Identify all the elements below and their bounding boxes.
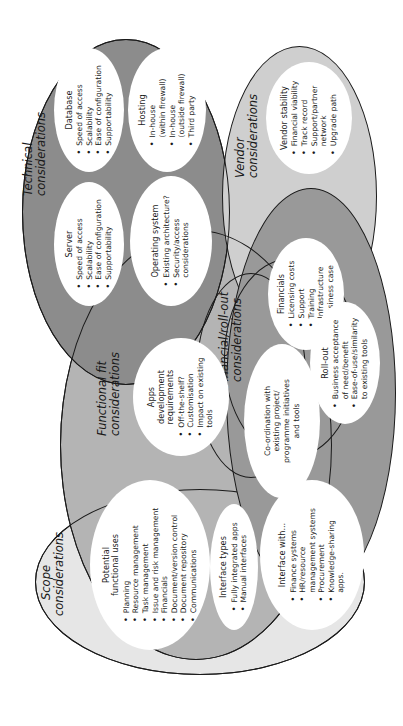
vendor-considerations-label: Vendor considerations <box>234 94 259 178</box>
apps-dev-item: Off-the-shelf? <box>177 357 187 436</box>
server-bubble: Server Speed of access Scalability Ease … <box>54 182 124 306</box>
coordination-line: programme initiatives <box>282 379 292 463</box>
roll-out-bubble: Roll-out Business acceptanceof need/bene… <box>310 302 380 424</box>
database-bubble: Database Speed of access Scalability Eas… <box>54 48 124 172</box>
technical-label-line1: Technical <box>22 112 35 196</box>
considerations-diagram: Technical considerations Vendor consider… <box>0 0 403 726</box>
potential-uses-item: Document/version control <box>170 508 180 623</box>
server-item: Supportability <box>104 199 114 289</box>
hosting-bubble: Hosting In-house(within firewall) In-hou… <box>128 48 206 172</box>
potential-uses-item: Document repository <box>179 508 189 623</box>
potential-functional-uses-bubble: Potential functional uses Planning Resou… <box>90 480 210 650</box>
operating-system-title: Operating system <box>151 195 161 286</box>
potential-uses-item: Task management <box>141 508 151 623</box>
vendor-item: Upgrade path <box>329 81 339 156</box>
interface-with-item: Knowledge-sharingapps. <box>327 508 346 602</box>
vendor-item: Track record <box>300 81 310 156</box>
scope-label-line2: considerations <box>53 532 66 616</box>
operating-system-bubble: Operating system Existing architecture? … <box>130 176 212 306</box>
interface-with-bubble: Interface with... Finance systems HR/res… <box>260 480 364 630</box>
interface-types-item: Manual interfaces <box>239 522 249 611</box>
financial-label-line2: considerations <box>231 292 244 388</box>
interface-with-item: Finance systems <box>289 508 299 602</box>
interface-types-title: Interface types <box>219 522 229 611</box>
apps-dev-item: Customisation <box>186 357 196 436</box>
interface-with-item: Procurement <box>317 508 327 602</box>
financials-title: Financials <box>277 261 287 328</box>
vendor-stability-bubble: Vendor stability Financial viability Tra… <box>266 62 352 174</box>
hosting-title: Hosting <box>138 74 148 147</box>
coordination-bubble: Co-ordination with existing project/ pro… <box>244 344 320 498</box>
coordination-line: existing project/ <box>272 379 282 463</box>
roll-out-item: Ease-of-use/similarityto existing tools <box>350 318 369 409</box>
database-item: Ease of configuration <box>94 65 104 155</box>
server-item: Scalability <box>85 199 95 289</box>
functional-considerations-label: Functional fit considerations <box>96 352 121 436</box>
os-item: Existing architecture? <box>162 195 172 286</box>
interface-with-item: HR/resourcemanagement systems <box>298 508 317 602</box>
interface-with-title: Interface with... <box>278 508 288 602</box>
vendor-item: Financial viability <box>290 81 300 156</box>
server-title: Server <box>65 199 75 289</box>
potential-uses-item: Issue and risk management <box>151 508 161 623</box>
roll-out-title: Roll-out <box>321 318 331 409</box>
functional-label-line1: Functional fit <box>96 352 109 436</box>
database-item: Scalability <box>85 65 95 155</box>
vendor-label-line1: Vendor <box>234 94 247 178</box>
vendor-label-line2: considerations <box>247 94 260 178</box>
server-item: Ease of configuration <box>94 199 104 289</box>
hosting-item: In-house(outside firewall) <box>168 74 187 147</box>
database-title: Database <box>65 65 75 155</box>
financials-item: Licensing costs <box>287 261 297 328</box>
vendor-stability-title: Vendor stability <box>280 81 290 156</box>
server-item: Speed of access <box>75 199 85 289</box>
apps-development-bubble: Apps development requirements Off-the-sh… <box>133 338 229 456</box>
financials-item: Support <box>297 261 307 328</box>
apps-dev-item: Impact on existingtools <box>196 357 215 436</box>
potential-uses-item: Resource management <box>131 508 141 623</box>
potential-uses-item: Planning <box>122 508 132 623</box>
technical-label-line2: considerations <box>35 112 48 196</box>
technical-considerations-label: Technical considerations <box>22 112 47 196</box>
coordination-line: Co-ordination with <box>263 379 273 463</box>
potential-uses-item: Communications <box>189 508 199 623</box>
scope-label-line1: Scope <box>40 532 53 616</box>
interface-types-bubble: Interface types Fully integrated apps Ma… <box>210 504 258 630</box>
coordination-line: and tools <box>292 379 302 463</box>
potential-uses-item: Financials <box>160 508 170 623</box>
database-item: Supportability <box>104 65 114 155</box>
scope-considerations-label: Scope considerations <box>40 532 65 616</box>
os-item: Security/accessconsiderations <box>172 195 191 286</box>
roll-out-item: Business acceptanceof need/benefit <box>331 318 350 409</box>
apps-dev-title: requirements <box>166 357 176 436</box>
interface-types-item: Fully integrated apps <box>230 522 240 611</box>
potential-uses-title: functional uses <box>111 508 121 623</box>
functional-label-line2: considerations <box>109 352 122 436</box>
hosting-item: In-house(within firewall) <box>148 74 167 147</box>
hosting-item: Third party <box>187 74 197 147</box>
vendor-item: Support/partnernetwork <box>310 81 329 156</box>
database-item: Speed of access <box>75 65 85 155</box>
financials-item: Training <box>307 261 317 328</box>
